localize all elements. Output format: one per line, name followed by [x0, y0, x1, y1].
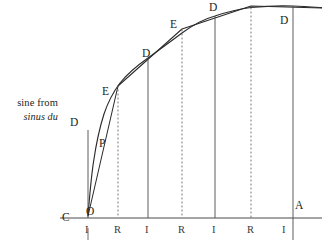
axis-tick-label-r2: R — [178, 225, 185, 236]
curve-group — [88, 6, 322, 216]
sine-construction-figure: sine from sinus du D O P E D E D D C A I… — [0, 0, 322, 240]
chord-group — [88, 6, 322, 216]
axis-tick-label-i2: I — [145, 225, 149, 236]
point-label-e1: E — [102, 86, 109, 98]
point-label-d3: D — [209, 2, 218, 14]
sine-curve — [88, 6, 322, 216]
point-label-d1: D — [70, 117, 79, 129]
point-label-d4: D — [280, 15, 289, 27]
axis-tick-label-r1: R — [114, 225, 121, 236]
point-label-o: O — [86, 206, 95, 218]
tangent-chord-polyline — [88, 6, 322, 216]
point-label-p: P — [99, 138, 106, 150]
point-label-c: C — [62, 212, 70, 224]
axis-tick-label-i3: I — [212, 225, 216, 236]
solid-ordinates-group — [88, 6, 293, 240]
dotted-ordinates-group — [118, 8, 251, 218]
axis-tick-label-i4: I — [282, 225, 286, 236]
point-label-a: A — [295, 200, 304, 212]
figure-caption: sine from sinus du — [0, 96, 58, 123]
axis-tick-label-i1: I — [85, 225, 89, 236]
point-label-d2: D — [142, 48, 151, 60]
caption-line-1: sine from — [0, 96, 58, 110]
axis-tick-label-r3: R — [247, 225, 254, 236]
caption-line-2: sinus du — [0, 110, 58, 123]
point-label-e2: E — [170, 19, 177, 31]
